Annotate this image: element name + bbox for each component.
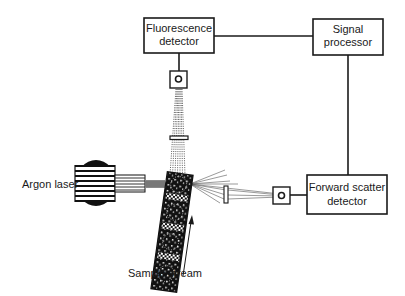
fluorescence-detector-label-line2: detector [159, 35, 199, 47]
flow-cytometer-diagram: Fluorescence detector Signal processor F… [0, 0, 405, 296]
laser-beam [145, 180, 165, 188]
scatter-rays [190, 170, 280, 203]
argon-laser-icon [75, 160, 145, 206]
signal-processor-box: Signal processor [313, 19, 383, 55]
forward-scatter-sensor-icon [273, 187, 290, 204]
fluorescence-lens-icon [170, 136, 188, 140]
forward-scatter-label-line2: detector [327, 195, 367, 207]
forward-scatter-detector-box: Forward scatter detector [307, 175, 387, 214]
signal-processor-label-line2: processor [324, 36, 373, 48]
fluorescence-detector-box: Fluorescence detector [144, 18, 214, 53]
signal-processor-label-line1: Signal [333, 23, 364, 35]
forward-scatter-label-line1: Forward scatter [309, 181, 386, 193]
fluorescence-sensor-icon [170, 71, 187, 88]
connection-wires [179, 36, 348, 195]
argon-laser-label: Argon laser [22, 178, 79, 190]
sample-stream-label: Sample stream [128, 267, 202, 279]
fluorescence-detector-label-line1: Fluorescence [146, 22, 212, 34]
forward-scatter-lens-icon [224, 186, 228, 203]
fluorescence-beam [170, 89, 185, 175]
